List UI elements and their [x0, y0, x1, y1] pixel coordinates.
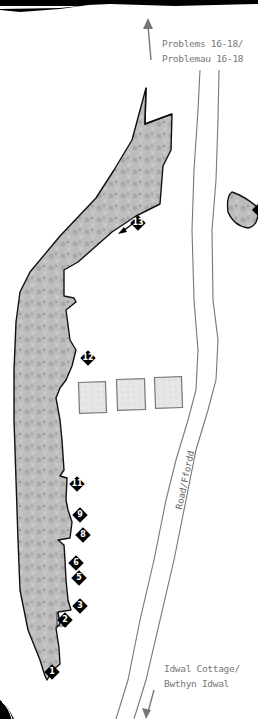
problem-marker-1[interactable]: 1 — [45, 665, 59, 679]
problem-marker-6[interactable]: 6 — [69, 556, 83, 570]
problem-marker-9[interactable]: 9 — [73, 508, 87, 522]
building-2 — [116, 379, 145, 411]
north-label-line1: Problems 16-18/ — [162, 36, 243, 51]
north-label-line2: Problemau 16-18 — [162, 51, 243, 66]
problem-marker-8[interactable]: 8 — [76, 528, 90, 542]
arrow-south-icon — [142, 690, 154, 719]
problem-marker-11[interactable]: 11 — [70, 477, 84, 491]
building-1 — [78, 382, 106, 414]
arrow-north-icon — [143, 18, 153, 60]
problem-marker-13[interactable]: 13 — [131, 216, 145, 230]
building-3 — [154, 377, 182, 409]
south-destination-label: Idwal Cottage/ Bwthyn Idwal — [164, 661, 240, 691]
problem-marker-2[interactable]: 2 — [58, 613, 72, 627]
torn-edge-top — [0, 0, 258, 12]
south-label-line2: Bwthyn Idwal — [164, 676, 240, 691]
map-canvas — [0, 0, 258, 719]
north-destination-label: Problems 16-18/ Problemau 16-18 — [162, 36, 243, 66]
torn-edge-bottom — [0, 700, 14, 719]
south-label-line1: Idwal Cottage/ — [164, 661, 240, 676]
problem-marker-3[interactable]: 3 — [73, 599, 87, 613]
problem-marker-5[interactable]: 5 — [72, 571, 86, 585]
problem-marker-12[interactable]: 12 — [81, 351, 95, 365]
